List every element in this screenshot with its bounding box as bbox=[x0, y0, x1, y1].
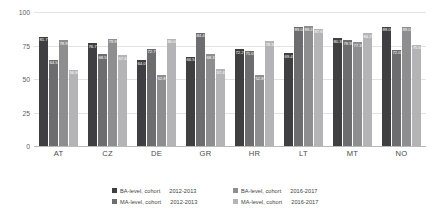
bar-slot: 66.5 bbox=[186, 12, 195, 146]
legend-swatch-icon bbox=[233, 199, 238, 204]
bar-group-at: 81.764.578.956.8 bbox=[34, 12, 83, 146]
plot-area: 81.764.578.956.876.768.579.967.664.072.7… bbox=[34, 12, 426, 146]
bar-slot: 69.4 bbox=[284, 12, 293, 146]
bar[interactable]: 81.7 bbox=[39, 37, 48, 146]
bar[interactable]: 80.3 bbox=[333, 38, 342, 146]
bar[interactable]: 69.4 bbox=[284, 53, 293, 146]
bar-group-lt: 69.489.089.287.6 bbox=[279, 12, 328, 146]
category-label-cz: CZ bbox=[83, 149, 132, 158]
bar[interactable]: 72.7 bbox=[147, 49, 156, 146]
bar[interactable]: 87.6 bbox=[314, 29, 323, 146]
bar[interactable]: 75.6 bbox=[412, 45, 421, 146]
bar-value-label: 89.2 bbox=[304, 28, 312, 32]
bar-chart: 0255075100 81.764.578.956.876.768.579.96… bbox=[0, 0, 434, 221]
bar[interactable]: 76.7 bbox=[88, 43, 97, 146]
bar-group-mt: 80.378.977.384.2 bbox=[328, 12, 377, 146]
legend-item[interactable]: MA-level, cohort2016-2017 bbox=[233, 196, 342, 207]
bar-slot: 87.6 bbox=[314, 12, 323, 146]
bar[interactable]: 79.9 bbox=[108, 39, 117, 146]
bar-value-label: 87.6 bbox=[314, 30, 322, 34]
category-label-lt: LT bbox=[279, 149, 328, 158]
legend-swatch-icon bbox=[112, 199, 117, 204]
bar[interactable]: 67.6 bbox=[118, 55, 127, 146]
legend-item[interactable]: BA-level, cohort2016-2017 bbox=[233, 185, 342, 196]
bar-value-label: 89.0 bbox=[382, 28, 390, 32]
bar-slot: 52.8 bbox=[157, 12, 166, 146]
bar-value-label: 57.4 bbox=[216, 71, 224, 75]
bar-value-label: 75.6 bbox=[412, 46, 420, 50]
y-axis-tick-label: 100 bbox=[0, 9, 30, 16]
bar-value-label: 77.3 bbox=[353, 44, 361, 48]
legend-series-name: BA-level, cohort bbox=[241, 188, 281, 194]
bar-value-label: 78.9 bbox=[59, 42, 67, 46]
bar[interactable]: 72.2 bbox=[235, 49, 244, 146]
bar[interactable]: 64.5 bbox=[49, 60, 58, 146]
bar-slot: 89.0 bbox=[382, 12, 391, 146]
bar[interactable]: 52.8 bbox=[255, 75, 264, 146]
bar[interactable]: 84.2 bbox=[363, 33, 372, 146]
legend-swatch-icon bbox=[112, 188, 117, 193]
category-label-at: AT bbox=[34, 149, 83, 158]
bar-slot: 56.8 bbox=[69, 12, 78, 146]
bar[interactable]: 68.3 bbox=[206, 54, 215, 146]
legend-series-name: MA-level, cohort bbox=[241, 199, 282, 205]
bar-slot: 80.0 bbox=[167, 12, 176, 146]
bar-group-de: 64.072.752.880.0 bbox=[132, 12, 181, 146]
bar-slot: 52.8 bbox=[255, 12, 264, 146]
category-label-gr: GR bbox=[181, 149, 230, 158]
bar-value-label: 71.0 bbox=[245, 52, 253, 56]
bar-slot: 72.7 bbox=[147, 12, 156, 146]
bar-slot: 79.9 bbox=[108, 12, 117, 146]
bar-value-label: 76.7 bbox=[88, 45, 96, 49]
bar-slot: 77.3 bbox=[353, 12, 362, 146]
bar-value-label: 69.4 bbox=[284, 55, 292, 59]
legend-series-year: 2012-2013 bbox=[170, 199, 197, 205]
bar[interactable]: 71.0 bbox=[245, 51, 254, 146]
bar-value-label: 68.3 bbox=[206, 56, 214, 60]
axis-baseline bbox=[34, 146, 426, 147]
bar-value-label: 66.5 bbox=[186, 58, 194, 62]
bar[interactable]: 56.8 bbox=[69, 70, 78, 146]
bar[interactable]: 84.4 bbox=[196, 33, 205, 146]
bar-slot: 89.2 bbox=[304, 12, 313, 146]
bar[interactable]: 78.3 bbox=[265, 41, 274, 146]
category-label-no: NO bbox=[377, 149, 426, 158]
bar[interactable]: 89.0 bbox=[294, 27, 303, 146]
bar[interactable]: 78.9 bbox=[343, 40, 352, 146]
y-axis-tick-label: 25 bbox=[0, 109, 30, 116]
bar[interactable]: 78.9 bbox=[59, 40, 68, 146]
legend-series-name: MA-level, cohort bbox=[120, 199, 161, 205]
bar-value-label: 84.4 bbox=[196, 34, 204, 38]
bar[interactable]: 52.8 bbox=[157, 75, 166, 146]
bar[interactable]: 72.0 bbox=[392, 50, 401, 146]
legend-item[interactable]: MA-level, cohort2012-2013 bbox=[112, 196, 221, 207]
bar[interactable]: 89.0 bbox=[382, 27, 391, 146]
bar-slot: 78.9 bbox=[59, 12, 68, 146]
bar-slot: 64.0 bbox=[137, 12, 146, 146]
bar[interactable]: 64.0 bbox=[137, 60, 146, 146]
bar[interactable]: 77.3 bbox=[353, 42, 362, 146]
bar-group-hr: 72.271.052.878.3 bbox=[230, 12, 279, 146]
bar-value-label: 52.8 bbox=[255, 77, 263, 81]
bar[interactable]: 89.2 bbox=[304, 26, 313, 146]
y-axis-tick-label: 75 bbox=[0, 42, 30, 49]
bar-value-label: 52.8 bbox=[157, 77, 165, 81]
bar[interactable]: 89.0 bbox=[402, 27, 411, 146]
bar-group-cz: 76.768.579.967.6 bbox=[83, 12, 132, 146]
bar-slot: 68.3 bbox=[206, 12, 215, 146]
bar[interactable]: 66.5 bbox=[186, 57, 195, 146]
bar-value-label: 72.7 bbox=[147, 50, 155, 54]
bar-slot: 71.0 bbox=[245, 12, 254, 146]
bar[interactable]: 80.0 bbox=[167, 39, 176, 146]
bar-slot: 67.6 bbox=[118, 12, 127, 146]
bar[interactable]: 57.4 bbox=[216, 69, 225, 146]
bar[interactable]: 68.5 bbox=[98, 54, 107, 146]
bar-value-label: 78.3 bbox=[265, 43, 273, 47]
bar-value-label: 67.6 bbox=[118, 57, 126, 61]
legend-series-year: 2016-2017 bbox=[290, 188, 317, 194]
legend-item[interactable]: BA-level, cohort2012-2013 bbox=[112, 185, 221, 196]
bar-value-label: 72.2 bbox=[235, 51, 243, 55]
bar-slot: 68.5 bbox=[98, 12, 107, 146]
legend-series-name: BA-level, cohort bbox=[120, 188, 160, 194]
bar-value-label: 80.0 bbox=[167, 40, 175, 44]
